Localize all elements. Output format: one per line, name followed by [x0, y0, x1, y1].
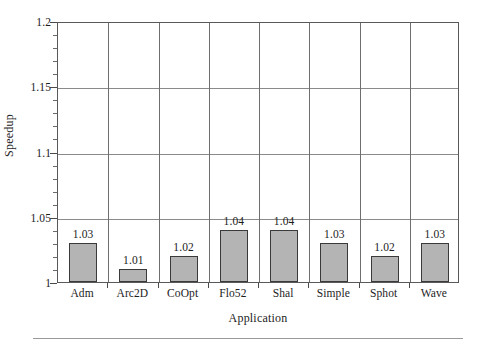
bar: [320, 243, 348, 282]
bar-value-label: 1.03: [425, 228, 446, 240]
y-axis-tick-minor: [53, 270, 57, 271]
bar: [421, 243, 449, 282]
bar-value-label: 1.03: [73, 228, 94, 240]
bar: [119, 269, 147, 282]
gridline-vertical: [360, 23, 361, 282]
gridline-vertical: [259, 23, 260, 282]
gridline-vertical: [159, 23, 160, 282]
y-axis-tick-label: 1.15: [30, 81, 51, 93]
x-axis-tick-label: Simple: [317, 287, 350, 299]
y-axis-tick-minor: [53, 179, 57, 180]
gridline-vertical: [108, 23, 109, 282]
bar-value-label: 1.02: [173, 241, 194, 253]
y-axis-tick-label: 1.1: [36, 147, 51, 159]
gridline-vertical: [309, 23, 310, 282]
x-axis-tick-label: Adm: [70, 287, 93, 299]
gridline-vertical: [410, 23, 411, 282]
y-axis-tick-major: [50, 153, 57, 154]
y-axis-tick-minor: [53, 139, 57, 140]
x-axis-tick-label: Sphot: [370, 287, 397, 299]
y-axis-tick-major: [50, 87, 57, 88]
y-axis-tick-minor: [53, 205, 57, 206]
y-axis-tick-minor: [53, 231, 57, 232]
bar: [170, 256, 198, 282]
gridline-horizontal: [58, 219, 458, 220]
bar-value-label: 1.01: [123, 254, 144, 266]
figure: 1.031.011.021.041.041.031.021.03 11.051.…: [0, 0, 487, 348]
y-axis-tick-minor: [53, 113, 57, 114]
y-axis-tick-minor: [53, 100, 57, 101]
x-axis-tick-label: Shal: [273, 287, 294, 299]
y-axis-tick-major: [50, 218, 57, 219]
bar: [371, 256, 399, 282]
y-axis-tick-minor: [53, 166, 57, 167]
y-axis-tick-minor: [53, 126, 57, 127]
bar-value-label: 1.04: [224, 215, 245, 227]
y-axis-title: Speedup: [2, 91, 17, 181]
y-axis-tick-minor: [53, 48, 57, 49]
page-horizontal-rule: [33, 338, 463, 339]
plot-area: 1.031.011.021.041.041.031.021.03: [57, 22, 459, 283]
y-axis-tick-label: 1.2: [36, 16, 51, 28]
bar-value-label: 1.04: [274, 215, 295, 227]
gridline-vertical: [209, 23, 210, 282]
bar: [270, 230, 298, 282]
gridline-horizontal: [58, 88, 458, 89]
y-axis-tick-minor: [53, 61, 57, 62]
x-axis-tick-label: CoOpt: [167, 287, 198, 299]
bar: [220, 230, 248, 282]
bar: [69, 243, 97, 282]
x-axis-tick-label: Flo52: [219, 287, 246, 299]
x-axis-tick-label: Arc2D: [116, 287, 148, 299]
x-axis-tick-labels: AdmArc2DCoOptFlo52ShalSimpleSphotWave: [57, 287, 459, 307]
y-axis-tick-minor: [53, 35, 57, 36]
y-axis-tick-minor: [53, 257, 57, 258]
y-axis-tick-minor: [53, 74, 57, 75]
y-axis-tick-major: [50, 283, 57, 284]
x-axis-title: Application: [57, 311, 459, 326]
y-axis-tick-minor: [53, 244, 57, 245]
y-axis-tick-major: [50, 22, 57, 23]
y-axis-tick-label: 1.05: [30, 212, 51, 224]
bar-value-label: 1.03: [324, 228, 345, 240]
x-axis-tick-label: Wave: [421, 287, 447, 299]
bar-value-label: 1.02: [374, 241, 395, 253]
gridline-horizontal: [58, 154, 458, 155]
y-axis-tick-minor: [53, 192, 57, 193]
